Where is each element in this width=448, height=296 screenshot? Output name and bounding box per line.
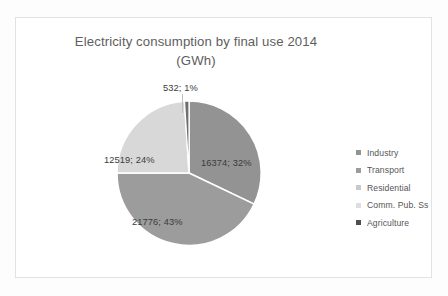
legend-label: Transport bbox=[367, 165, 404, 175]
legend-item-comm-pub-ss[interactable]: Comm. Pub. Ss bbox=[356, 197, 448, 215]
legend-label: Residential bbox=[367, 183, 411, 193]
legend-swatch-icon bbox=[356, 168, 361, 173]
data-label-transport: 21776; 43% bbox=[132, 217, 183, 227]
legend-swatch-icon bbox=[356, 185, 361, 190]
data-label-residential: 12519; 24% bbox=[104, 155, 155, 165]
data-label-industry: 16374; 32% bbox=[201, 158, 252, 168]
legend-swatch-icon bbox=[356, 150, 361, 155]
legend-item-transport[interactable]: Transport bbox=[356, 162, 448, 180]
legend-item-agriculture[interactable]: Agriculture bbox=[356, 214, 448, 232]
legend-label: Comm. Pub. Ss bbox=[367, 200, 428, 210]
data-label-leader-line bbox=[182, 94, 183, 113]
legend-item-residential[interactable]: Residential bbox=[356, 179, 448, 197]
page-background: Electricity consumption by final use 201… bbox=[0, 0, 448, 296]
legend-item-industry[interactable]: Industry bbox=[356, 144, 448, 162]
legend-label: Agriculture bbox=[367, 218, 409, 228]
chart-legend: Industry Transport Residential Comm. Pub… bbox=[356, 144, 448, 232]
legend-label: Industry bbox=[367, 148, 398, 158]
chart-frame: Electricity consumption by final use 201… bbox=[15, 17, 432, 278]
legend-swatch-icon bbox=[356, 203, 361, 208]
pie-chart[interactable] bbox=[94, 78, 284, 268]
data-label-comm-pub-ss: 532; 1% bbox=[163, 83, 198, 93]
legend-swatch-icon bbox=[356, 220, 361, 225]
plot-area: 532; 1% 16374; 32% 21776; 43% 12519; 24%… bbox=[16, 18, 433, 279]
